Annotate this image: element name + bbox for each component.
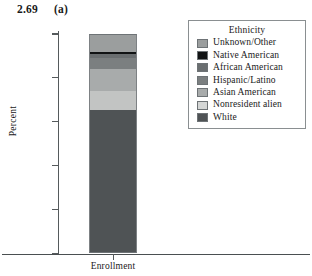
legend-swatch-icon <box>197 51 208 60</box>
legend-swatch-icon <box>197 39 208 48</box>
bar-segment <box>89 34 137 52</box>
legend-item[interactable]: Nonresident alien <box>193 99 301 111</box>
legend-swatch-icon <box>197 113 208 122</box>
legend-item-label: African American <box>213 63 283 73</box>
legend-item[interactable]: White <box>193 111 301 123</box>
legend-swatch-icon <box>197 63 208 72</box>
y-tick-mark <box>52 121 58 122</box>
stacked-bar-enrollment <box>89 34 137 254</box>
bar-segment <box>89 58 137 69</box>
legend-item[interactable]: Asian American <box>193 87 301 99</box>
legend-item-label: Native American <box>213 51 279 61</box>
y-axis-title: Percent <box>8 91 18 151</box>
legend-item-label: White <box>213 113 237 123</box>
y-tick-mark <box>52 33 58 34</box>
legend-item-label: Asian American <box>213 88 276 98</box>
legend-ethnicity: Ethnicity Unknown/OtherNative AmericanAf… <box>188 20 306 129</box>
y-tick-mark <box>52 253 58 254</box>
x-axis-line <box>2 254 310 255</box>
chart-plot-area: 020406080100 Percent Enrollment <box>0 0 180 276</box>
legend-item[interactable]: African American <box>193 62 301 74</box>
legend-swatch-icon <box>197 101 208 110</box>
x-axis-label-enrollment: Enrollment <box>63 261 163 271</box>
y-tick-mark <box>52 209 58 210</box>
legend-item-label: Unknown/Other <box>213 38 276 48</box>
x-axis-tick-mark <box>113 254 114 260</box>
y-tick-mark <box>52 77 58 78</box>
bar-segment <box>89 110 137 254</box>
bar-segment <box>89 91 137 110</box>
legend-item-label: Nonresident alien <box>213 100 282 110</box>
legend-item-label: Hispanic/Latino <box>213 76 276 86</box>
legend-swatch-icon <box>197 76 208 85</box>
y-axis-line <box>58 31 59 255</box>
legend-entries: Unknown/OtherNative AmericanAfrican Amer… <box>193 37 301 124</box>
bar-segment <box>89 69 137 91</box>
legend-title: Ethnicity <box>193 25 301 35</box>
legend-item[interactable]: Hispanic/Latino <box>193 74 301 86</box>
legend-swatch-icon <box>197 88 208 97</box>
y-tick-mark <box>52 165 58 166</box>
legend-item[interactable]: Native American <box>193 49 301 61</box>
legend-item[interactable]: Unknown/Other <box>193 37 301 49</box>
